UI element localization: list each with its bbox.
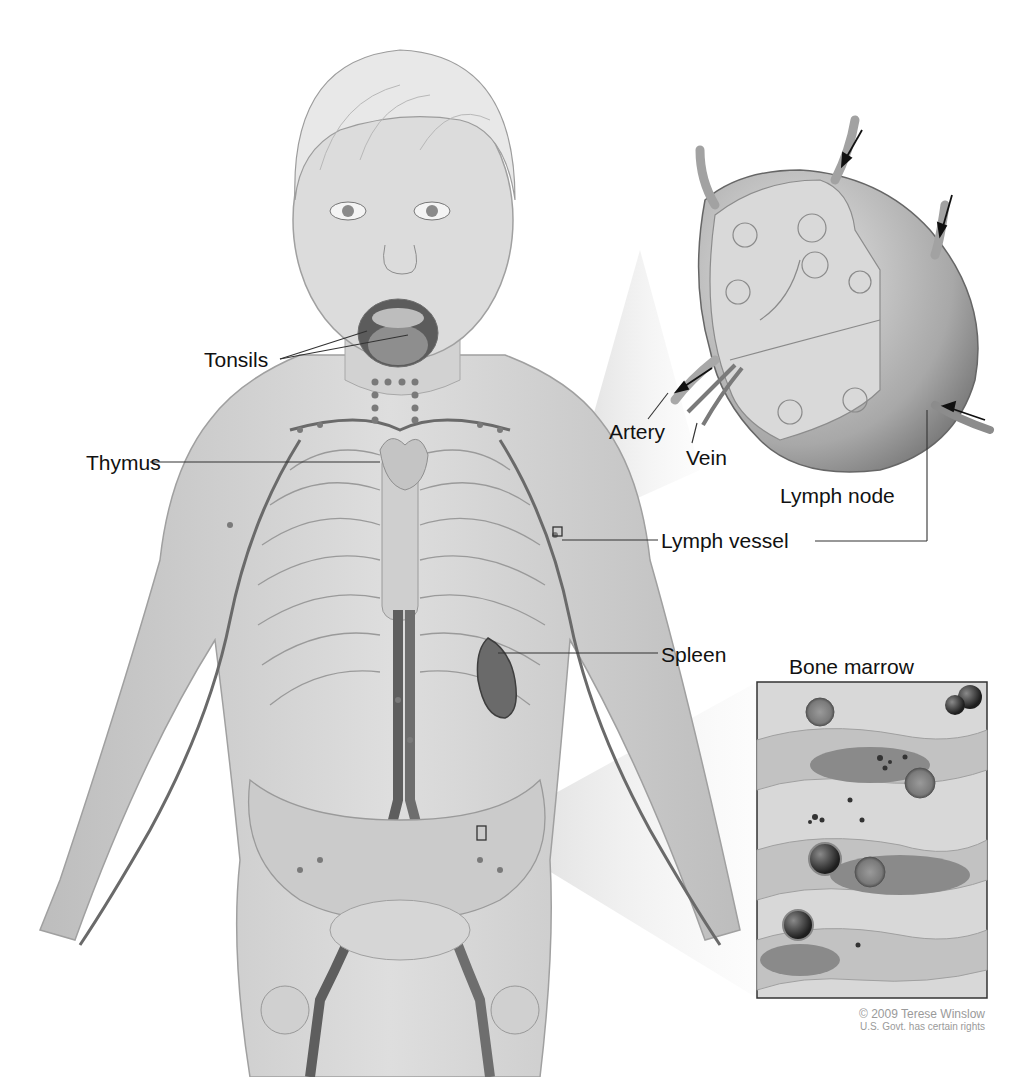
- label-tonsils: Tonsils: [204, 349, 268, 370]
- copyright-line-2: U.S. Govt. has certain rights: [859, 1021, 985, 1032]
- label-spleen: Spleen: [661, 644, 726, 665]
- lymph-node-inset: [675, 120, 990, 472]
- label-lymph-vessel: Lymph vessel: [661, 530, 789, 551]
- label-vein: Vein: [686, 447, 727, 468]
- bone-marrow-inset: [757, 682, 987, 998]
- lymphatic-system-diagram: Tonsils Thymus Artery Vein Lymph node Ly…: [0, 0, 1023, 1077]
- copyright-notice: © 2009 Terese Winslow U.S. Govt. has cer…: [859, 1008, 985, 1032]
- label-artery: Artery: [609, 421, 665, 442]
- label-thymus: Thymus: [86, 452, 161, 473]
- label-lymph-node: Lymph node: [780, 485, 895, 506]
- label-bone-marrow: Bone marrow: [789, 656, 914, 677]
- copyright-line-1: © 2009 Terese Winslow: [859, 1008, 985, 1021]
